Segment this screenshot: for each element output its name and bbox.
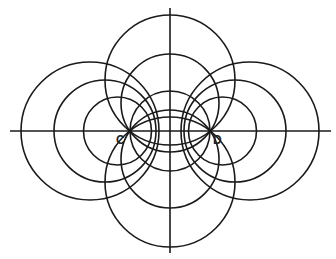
apollonian-circles-diagram: C D [0, 0, 336, 259]
point-label-d: D [213, 134, 222, 146]
point-label-c: C [116, 134, 125, 146]
point-c [128, 129, 132, 133]
diagram-canvas [0, 0, 336, 259]
point-d [208, 129, 212, 133]
